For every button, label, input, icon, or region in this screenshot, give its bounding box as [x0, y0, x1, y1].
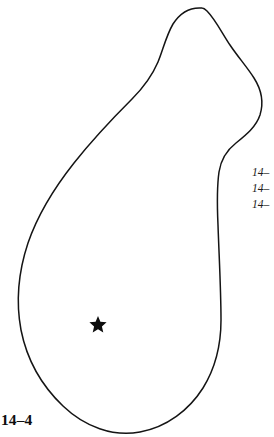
contour-outline-path: [18, 8, 261, 433]
outline-diagram: [0, 0, 274, 437]
figure-number-label: 14–4: [1, 411, 32, 429]
figure-panel: 14– 14– 14– 14–4: [0, 0, 274, 437]
callout-label-1: 14–: [252, 164, 274, 180]
callout-label-3: 14–: [252, 196, 274, 212]
callout-label-2: 14–: [252, 180, 274, 196]
callout-label-group: 14– 14– 14–: [252, 164, 274, 212]
